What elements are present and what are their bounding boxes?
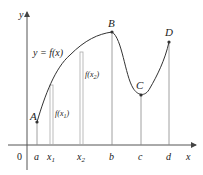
point-d-marker: [167, 40, 170, 43]
tick-label-x2: x2: [76, 151, 85, 164]
point-label-b: B: [108, 17, 115, 29]
point-b-marker: [110, 30, 113, 33]
tick-label-x1: x1: [46, 151, 55, 164]
bar-label-f-x2: f(x2): [85, 70, 99, 80]
tick-label-a: a: [34, 151, 39, 162]
point-label-c: C: [136, 79, 144, 91]
bar-label-f-x1: f(x1): [55, 109, 69, 119]
point-label-d: D: [164, 26, 173, 38]
bar-f-x1: [50, 85, 53, 145]
y-axis-label: y: [18, 9, 24, 20]
x-axis-label: x: [185, 151, 191, 162]
tick-label-c: c: [138, 151, 143, 162]
point-c-marker: [139, 93, 142, 96]
equation-label: y = f(x): [32, 47, 64, 59]
bar-f-x2: [80, 52, 83, 145]
origin-label: 0: [17, 151, 22, 162]
point-label-a: A: [29, 110, 37, 122]
tick-label-b: b: [109, 151, 114, 162]
function-diagram: A B C D y = f(x) f(x1) f(x2) y x 0 a x1 …: [0, 0, 203, 175]
tick-label-d: d: [166, 151, 172, 162]
